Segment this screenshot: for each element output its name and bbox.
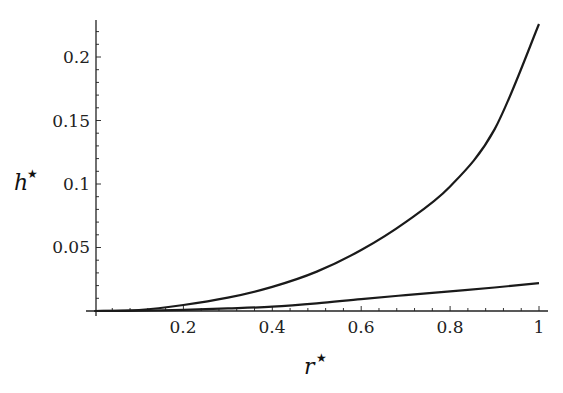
star-superscript: ★ xyxy=(316,351,327,365)
y-tick-label: 0.2 xyxy=(63,47,90,67)
y-tick-labels: 0.05 0.1 0.15 0.2 xyxy=(52,47,90,257)
y-minor-ticks xyxy=(96,32,101,299)
svg-text:r: r xyxy=(304,354,316,379)
x-axis-title: r ★ xyxy=(304,351,327,379)
x-tick-label: 0.4 xyxy=(258,317,285,337)
x-tick-label: 1 xyxy=(534,317,545,337)
y-tick-label: 0.05 xyxy=(52,237,90,257)
chart: 0.2 0.4 0.6 0.8 1 0.05 0.1 0.15 0.2 r ★ … xyxy=(0,0,563,393)
y-tick-label: 0.15 xyxy=(52,111,90,131)
x-tick-label: 0.6 xyxy=(347,317,374,337)
star-superscript: ★ xyxy=(27,167,38,181)
x-tick-label: 0.8 xyxy=(436,317,463,337)
y-axis-title: h ★ xyxy=(14,167,38,195)
x-tick-label: 0.2 xyxy=(169,317,196,337)
upper-curve xyxy=(95,24,540,311)
x-tick-labels: 0.2 0.4 0.6 0.8 1 xyxy=(169,317,544,337)
y-tick-label: 0.1 xyxy=(63,174,90,194)
